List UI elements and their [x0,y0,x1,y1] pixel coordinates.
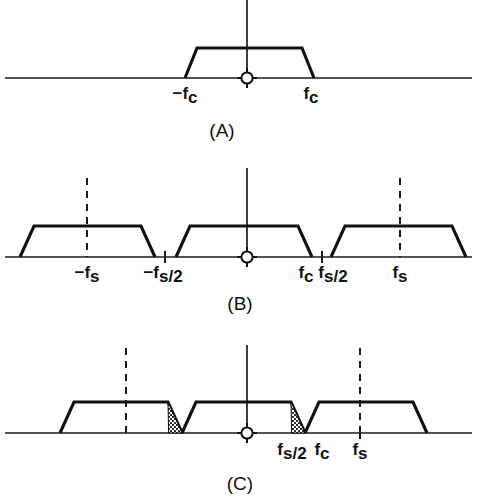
panel-c-label-fs: fs [352,440,367,463]
panel-c-label-fs-half: fs/2 [277,440,306,463]
panel-b-label-minus-fs: −fs [74,263,99,286]
spectrum-figure: −fc fc (A) −fs −fs/2 fc fs/2 fs [0,0,480,498]
panel-b-label-minus-fs-half: −fs/2 [143,263,182,286]
panel-c: fs/2 fc fs (C) [5,345,472,494]
panel-b-caption: (B) [227,293,252,314]
panel-c-replica-left-trapezoid [60,402,182,433]
panel-b-label-fs: fs [392,263,407,286]
panel-b: −fs −fs/2 fc fs/2 fs (B) [5,168,472,314]
panel-c-replica-right-trapezoid [305,402,427,433]
panel-b-origin-marker [237,247,257,267]
panel-c-alias-region-left [168,402,182,433]
panel-a-origin-marker [237,68,257,88]
panel-b-replica-right-trapezoid [331,226,466,257]
panel-a-caption: (A) [209,120,234,141]
panel-c-caption: (C) [227,473,253,494]
panel-c-alias-region-right [291,402,305,433]
panel-a-label-fc: fc [303,84,318,107]
panel-a-label-minus-fc: −fc [172,84,197,107]
panel-c-origin-marker [237,423,257,443]
panel-b-label-fc: fc [298,263,313,286]
panel-a: −fc fc (A) [5,0,472,141]
panel-c-label-fc: fc [314,440,329,463]
panel-b-label-fs-half: fs/2 [318,263,347,286]
